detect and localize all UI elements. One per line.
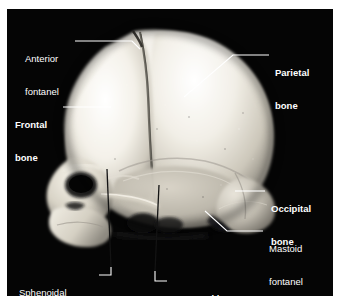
- label-frontal-bone-line2: bone: [15, 152, 47, 163]
- label-frontal-bone: Frontal bone: [15, 97, 47, 185]
- label-mastoid-fontanel-line2: fontanel: [269, 276, 303, 287]
- label-mastoid-fontanel: Mastoid fontanel: [269, 221, 303, 296]
- label-occipital-bone-line1: Occipital: [271, 203, 311, 214]
- label-parietal-bone: Parietal bone: [275, 45, 309, 133]
- label-anterior-fontanel-line2: fontanel: [25, 86, 59, 97]
- label-sphenoidal-fontanel-line1: Sphenoidal: [19, 287, 67, 296]
- label-temporal-bone-line1: Temporal bone: [172, 293, 241, 296]
- label-temporal-bone: Temporal bone (squamous part): [172, 271, 241, 296]
- label-frontal-bone-line1: Frontal: [15, 119, 47, 130]
- label-parietal-bone-line2: bone: [275, 100, 309, 111]
- photo-plate: Anterior fontanel Parietal bone Frontal …: [7, 9, 333, 296]
- label-parietal-bone-line1: Parietal: [275, 67, 309, 78]
- anatomy-figure: Anterior fontanel Parietal bone Frontal …: [0, 0, 339, 305]
- label-anterior-fontanel-line1: Anterior: [25, 53, 59, 64]
- label-mastoid-fontanel-line1: Mastoid: [269, 243, 303, 254]
- label-sphenoidal-fontanel: Sphenoidal fontanel: [19, 265, 67, 296]
